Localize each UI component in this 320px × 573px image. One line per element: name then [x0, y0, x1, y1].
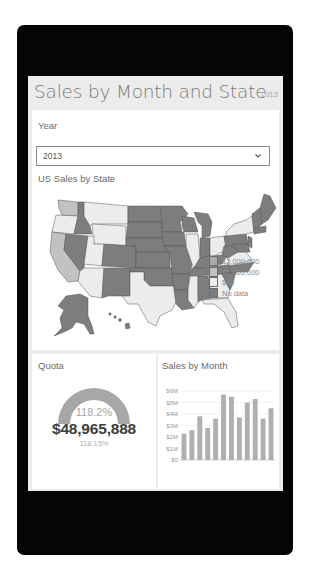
quota-value: $48,965,888 — [32, 420, 156, 438]
quota-card[interactable]: Quota 118.2% $48,965,888 118.15% — [32, 354, 156, 489]
app-header: Sales by Month and State 2013 — [28, 76, 283, 110]
bar-month-4[interactable] — [205, 428, 210, 460]
map-title: US Sales by State — [38, 173, 115, 184]
bar-month-7[interactable] — [229, 397, 234, 460]
state-me — [260, 194, 276, 224]
bar-month-9[interactable] — [245, 403, 250, 461]
legend-swatch — [209, 288, 218, 298]
y-tick-label: $5M — [166, 400, 178, 406]
y-tick-label: $4M — [166, 411, 178, 417]
y-tick-label: $1M — [166, 446, 178, 452]
quota-sub-label: 118.15% — [32, 439, 156, 448]
bar-month-10[interactable] — [253, 399, 258, 460]
state-mt — [84, 202, 128, 226]
state-wa — [58, 200, 78, 216]
filter-and-map-card: Year 2013 US Sales by State — [32, 110, 279, 350]
quota-gauge-percent: 118.2% — [32, 406, 156, 418]
legend-swatch — [209, 267, 218, 277]
legend-swatch — [209, 277, 218, 287]
app-screen: Sales by Month and State 2013 Year 2013 … — [28, 76, 283, 491]
year-label: Year — [38, 120, 57, 131]
state-or — [52, 215, 78, 234]
sales-by-month-title: Sales by Month — [162, 360, 227, 371]
sales-by-month-card[interactable]: Sales by Month $0$1M$2M$3M$4M$5M$6M — [158, 354, 279, 489]
year-select-value: 2013 — [43, 151, 62, 161]
state-co — [102, 244, 136, 268]
state-hi-4 — [125, 323, 130, 329]
state-ar — [172, 274, 190, 290]
sales-by-month-chart[interactable]: $0$1M$2M$3M$4M$5M$6M — [158, 374, 279, 474]
state-in — [200, 238, 210, 258]
page-title: Sales by Month and State — [34, 81, 266, 102]
legend-label: No data — [222, 289, 248, 298]
state-sd — [126, 222, 162, 238]
bar-month-8[interactable] — [237, 417, 242, 460]
state-hi-1 — [109, 313, 111, 315]
state-ny — [226, 216, 254, 236]
state-wy — [92, 224, 126, 246]
state-az — [78, 268, 104, 298]
bar-month-3[interactable] — [197, 416, 202, 460]
y-tick-label: $6M — [166, 388, 178, 394]
state-ia — [162, 232, 186, 246]
legend-swatch — [209, 256, 218, 266]
bar-month-11[interactable] — [261, 419, 266, 460]
state-nm — [102, 268, 130, 298]
bar-month-1[interactable] — [182, 434, 187, 460]
bar-month-2[interactable] — [189, 430, 194, 460]
bar-month-12[interactable] — [269, 408, 274, 460]
state-hi-2 — [114, 316, 116, 318]
state-fl — [202, 298, 238, 328]
state-wi — [182, 216, 198, 232]
state-ak — [54, 294, 94, 336]
y-tick-label: $2M — [166, 434, 178, 440]
state-ks — [136, 252, 170, 268]
y-tick-label: $3M — [166, 423, 178, 429]
state-nj — [248, 236, 252, 248]
legend-label: $1,000,000 — [222, 268, 260, 277]
state-nd — [128, 206, 162, 222]
bar-month-5[interactable] — [213, 419, 218, 460]
page-title-year: 2013 — [261, 90, 278, 99]
screen-bottom-edge — [28, 489, 283, 491]
legend-label: $2,000,000 — [222, 257, 260, 266]
y-tick-label: $0 — [171, 457, 178, 463]
bar-month-6[interactable] — [221, 394, 226, 460]
state-hi-3 — [119, 319, 122, 322]
legend-label: $40 — [222, 278, 235, 287]
year-select[interactable]: 2013 — [36, 146, 270, 166]
quota-title: Quota — [38, 360, 64, 371]
chevron-down-icon — [253, 151, 263, 161]
